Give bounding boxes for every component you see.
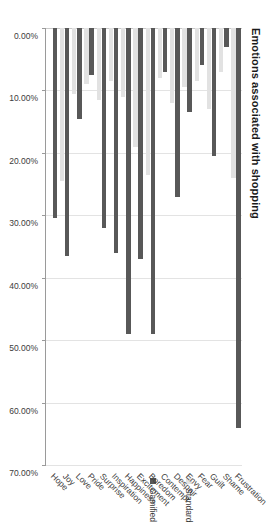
bar-gamified (139, 28, 143, 259)
bar-gamified (126, 28, 130, 334)
x-axis-tick-label: 40.00% (9, 281, 38, 291)
bar-group (59, 28, 70, 465)
bar-group (120, 28, 131, 465)
chart-canvas: Emotions associated with shopping 0.00%1… (0, 0, 268, 529)
bar-standard (170, 28, 174, 103)
bar-standard (133, 28, 137, 147)
bar-group (181, 28, 192, 465)
bar-standard (182, 28, 186, 87)
bar-gamified (175, 28, 179, 197)
x-axis-tick (42, 278, 46, 279)
x-axis-tick-label: 50.00% (9, 343, 38, 353)
x-axis-tick-label: 10.00% (9, 93, 38, 103)
bar-gamified (90, 28, 94, 75)
bar-group (230, 28, 241, 465)
bar-group (47, 28, 58, 465)
bar-gamified (237, 28, 241, 428)
bar-group (83, 28, 94, 465)
bar-standard (231, 28, 235, 178)
bar-standard (84, 28, 88, 84)
bar-standard (121, 28, 125, 97)
bar-group (218, 28, 229, 465)
bar-standard (109, 28, 113, 81)
bar-gamified (163, 28, 167, 72)
bar-group (206, 28, 217, 465)
x-axis-tick-label: 70.00% (9, 468, 38, 478)
bar-group (132, 28, 143, 465)
x-axis-tick-label: 20.00% (9, 156, 38, 166)
x-axis-tick (42, 403, 46, 404)
bar-standard (97, 28, 101, 100)
x-axis-tick (42, 90, 46, 91)
x-axis-tick-label: 30.00% (9, 218, 38, 228)
x-axis-tick-label: 60.00% (9, 406, 38, 416)
x-axis: 0.00%10.00%20.00%30.00%40.00%50.00%60.00… (45, 28, 46, 465)
bar-gamified (224, 28, 228, 47)
bar-gamified (212, 28, 216, 156)
bar-gamified (114, 28, 118, 253)
bar-gamified (65, 28, 69, 256)
bar-group (145, 28, 156, 465)
bar-gamified (151, 28, 155, 334)
x-axis-tick (42, 215, 46, 216)
x-axis-tick (42, 28, 46, 29)
bar-standard (219, 28, 223, 72)
bar-standard (146, 28, 150, 175)
x-axis-tick (42, 153, 46, 154)
bar-group (194, 28, 205, 465)
bar-gamified (188, 28, 192, 112)
bar-gamified (102, 28, 106, 228)
bar-group (169, 28, 180, 465)
x-axis-tick-label: 0.00% (14, 31, 38, 41)
bar-group (108, 28, 119, 465)
bar-standard (207, 28, 211, 109)
bar-groups (46, 28, 242, 465)
x-axis-tick (42, 465, 46, 466)
bar-standard (195, 28, 199, 81)
gridline (46, 465, 242, 466)
plot-area (46, 28, 242, 465)
bar-gamified (53, 28, 57, 218)
chart-title: Emotions associated with shopping (250, 28, 262, 219)
bar-standard (72, 28, 76, 94)
bar-gamified (200, 28, 204, 65)
bar-standard (158, 28, 162, 78)
bar-standard (60, 28, 64, 181)
bar-group (71, 28, 82, 465)
bar-group (96, 28, 107, 465)
x-axis-tick (42, 340, 46, 341)
bar-gamified (77, 28, 81, 119)
bar-group (157, 28, 168, 465)
